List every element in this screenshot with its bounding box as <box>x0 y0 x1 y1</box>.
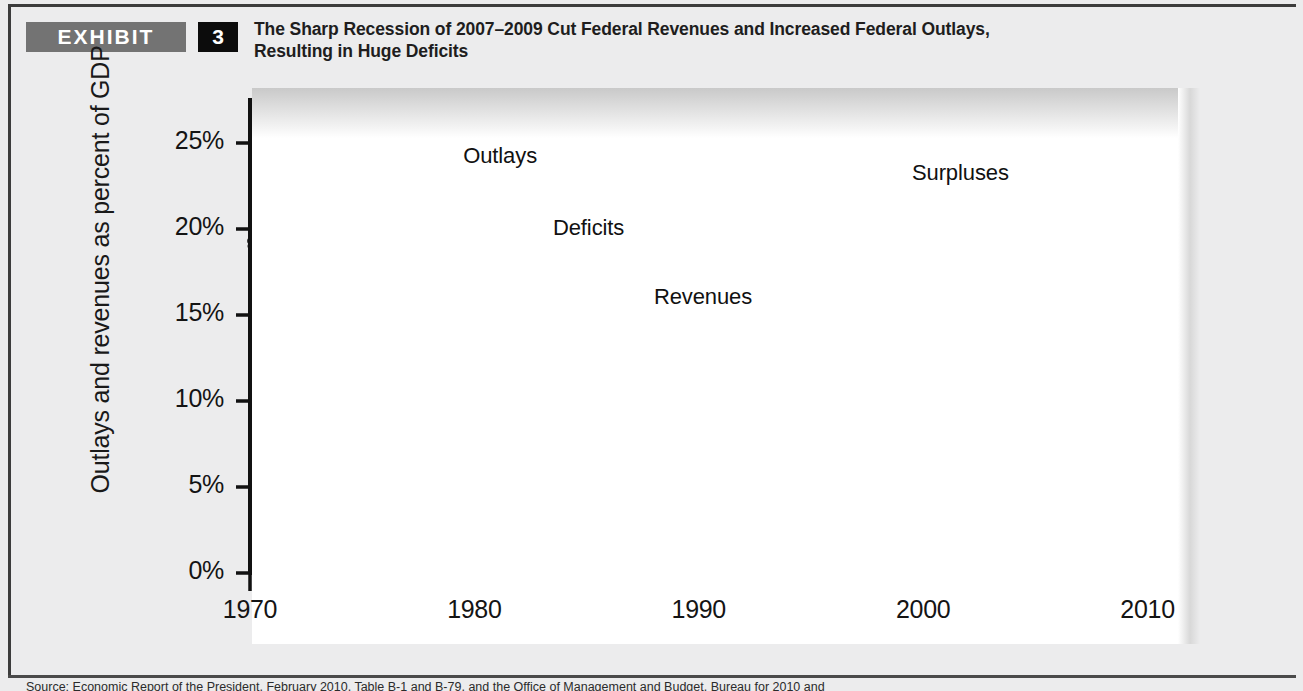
annotation-surpluses: Surpluses <box>912 160 1009 186</box>
exhibit-title-line-2: Resulting in Huge Deficits <box>254 40 1264 62</box>
annotation-outlays: Outlays <box>463 143 537 169</box>
exhibit-header: EXHIBIT 3 The Sharp Recession of 2007–20… <box>26 20 1276 72</box>
y-axis-title: Outlays and revenues as percent of GDP <box>86 164 115 494</box>
y-tick-label: 20% <box>138 212 224 241</box>
x-tick-label: 1980 <box>424 595 524 624</box>
y-tick-label: 25% <box>138 126 224 155</box>
exhibit-title: The Sharp Recession of 2007–2009 Cut Fed… <box>254 18 1264 62</box>
y-tick-label: 5% <box>138 470 224 499</box>
exhibit-left-rule <box>8 4 11 678</box>
y-tick-label: 15% <box>138 298 224 327</box>
exhibit-title-line-1: The Sharp Recession of 2007–2009 Cut Fed… <box>254 18 1264 40</box>
x-tick-label: 1970 <box>200 595 300 624</box>
exhibit-number-badge: 3 <box>198 22 238 52</box>
x-tick-label: 2010 <box>1098 595 1198 624</box>
x-tick-label: 1990 <box>649 595 749 624</box>
plot-right-edge-shading <box>1178 88 1200 644</box>
plot-backdrop <box>252 88 1200 644</box>
y-tick-label: 0% <box>138 556 224 585</box>
chart-figure: Outlays and revenues as percent of GDP 0… <box>30 84 1273 644</box>
x-tick-label: 2000 <box>873 595 973 624</box>
annotation-revenues: Revenues <box>654 284 752 310</box>
exhibit-bottom-rule <box>8 675 1296 678</box>
annotation-deficits: Deficits <box>553 215 624 241</box>
source-note: Source: Economic Report of the President… <box>26 680 1276 691</box>
exhibit-container: EXHIBIT 3 The Sharp Recession of 2007–20… <box>0 0 1303 691</box>
y-tick-label: 10% <box>138 384 224 413</box>
exhibit-top-rule <box>8 4 1296 7</box>
